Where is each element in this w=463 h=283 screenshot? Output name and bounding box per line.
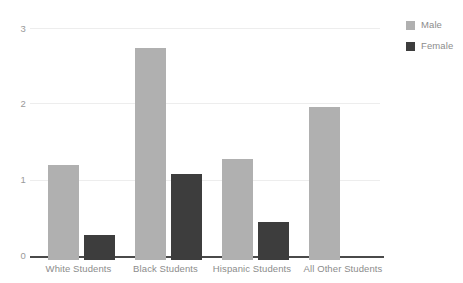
y-tick-label-1: 1 — [4, 175, 26, 185]
bar-female-black-students[interactable] — [171, 174, 202, 260]
y-tick-label-2: 2 — [4, 99, 26, 109]
y-axis: 3 2 1 0 — [0, 20, 26, 260]
bar-female-hispanic-students[interactable] — [258, 222, 289, 260]
bar-group-black-students — [135, 24, 213, 260]
bar-group-all-other-students — [309, 24, 387, 260]
legend-swatch-male-icon — [406, 21, 415, 30]
legend-item-female[interactable]: Female — [406, 39, 463, 53]
legend-label-female: Female — [421, 41, 453, 51]
bar-male-black-students[interactable] — [135, 48, 166, 260]
bar-group-white-students — [48, 24, 126, 260]
legend-label-male: Male — [421, 20, 442, 30]
legend-item-male[interactable]: Male — [406, 18, 463, 32]
y-tick-label-3: 3 — [4, 24, 26, 34]
y-tick-label-0: 0 — [4, 251, 26, 261]
x-tick-label-all-other-students: All Other Students — [288, 262, 398, 276]
plot-area — [30, 20, 380, 260]
legend: Male Female — [406, 18, 463, 60]
bar-female-white-students[interactable] — [84, 235, 115, 260]
bar-male-white-students[interactable] — [48, 165, 79, 260]
bar-group-hispanic-students — [222, 24, 300, 260]
bar-male-hispanic-students[interactable] — [222, 159, 253, 260]
bar-chart: 3 2 1 0 White Students Blac — [0, 0, 463, 283]
x-axis: White Students Black Students Hispanic S… — [30, 262, 385, 280]
bar-male-all-other-students[interactable] — [309, 107, 340, 260]
legend-swatch-female-icon — [406, 42, 415, 51]
